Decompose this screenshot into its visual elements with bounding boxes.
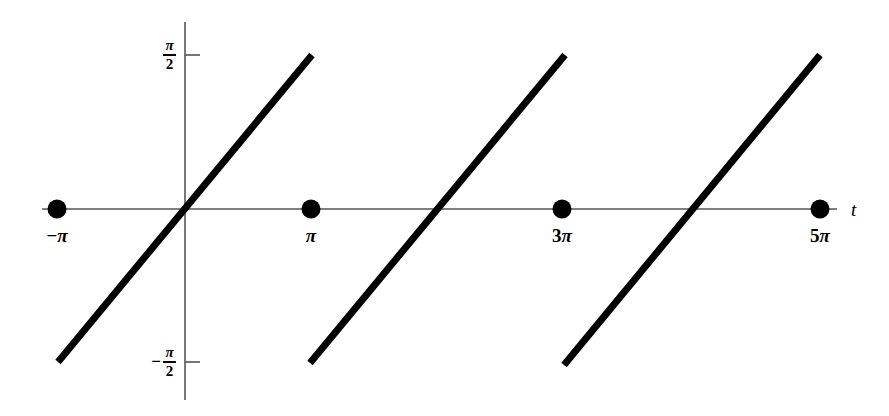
x-tick-label-5pi: 5π [810, 226, 830, 245]
fraction-neg-pi-over-2: π 2 [163, 345, 176, 379]
coefficient: 5 [810, 225, 820, 246]
x-axis-name-label: t [851, 200, 856, 219]
sawtooth-plot-figure: π 2 − π 2 −π π 3π 5π t [0, 0, 889, 416]
pi-symbol: π [562, 225, 572, 246]
minus-sign: − [151, 353, 161, 371]
pi-symbol: π [57, 225, 67, 246]
pi-symbol: π [820, 225, 830, 246]
fraction-pi-over-2: π 2 [163, 38, 176, 72]
fraction-denominator: 2 [164, 363, 176, 379]
y-tick-label-pi-over-2: π 2 [140, 38, 176, 72]
fraction-numerator: π [163, 345, 175, 361]
dot-pi [302, 200, 321, 219]
x-tick-label-pi: π [306, 226, 316, 245]
x-tick-label-3pi: 3π [552, 226, 572, 245]
ramp-segment-3 [564, 55, 820, 365]
fraction-denominator: 2 [164, 56, 176, 72]
minus-sign: − [46, 225, 57, 246]
fraction-numerator: π [163, 38, 175, 54]
dot-5pi [811, 200, 830, 219]
pi-symbol: π [306, 225, 316, 246]
dot-3pi [553, 200, 572, 219]
dot-minus-pi [48, 200, 67, 219]
coefficient: 3 [552, 225, 562, 246]
x-tick-label-minus-pi: −π [46, 226, 67, 245]
y-tick-label-neg-pi-over-2: − π 2 [130, 345, 176, 379]
